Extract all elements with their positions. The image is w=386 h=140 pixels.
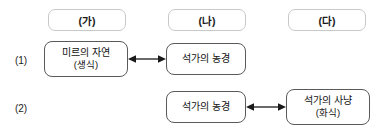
node-row2-col-da: 석가의 사냥 (화식) xyxy=(286,89,370,125)
column-header-da-label: (다) xyxy=(319,13,336,28)
column-header-ga: (가) xyxy=(48,9,126,31)
double-arrow-row1 xyxy=(128,53,166,65)
node-row2-col-na-line1: 석가의 농경 xyxy=(182,101,230,113)
node-row2-col-da-line2: (화식) xyxy=(316,107,340,119)
node-row1-col-ga: 미르의 자연 (생식) xyxy=(44,41,128,77)
double-arrow-row2 xyxy=(246,101,286,113)
column-header-da: (다) xyxy=(288,9,366,31)
node-row1-col-na-line1: 석가의 농경 xyxy=(182,53,230,65)
row-label-1: (1) xyxy=(6,55,36,66)
column-header-ga-label: (가) xyxy=(79,13,96,28)
node-row1-col-ga-line1: 미르의 자연 xyxy=(62,47,110,59)
row-label-2: (2) xyxy=(6,103,36,114)
node-row1-col-na: 석가의 농경 xyxy=(166,43,246,75)
node-row2-col-da-line1: 석가의 사냥 xyxy=(304,95,352,107)
comparison-diagram: (가) (나) (다) (1) 미르의 자연 (생식) 석가의 농경 (2) 석… xyxy=(0,0,386,140)
column-header-na-label: (나) xyxy=(199,13,216,28)
column-header-na: (나) xyxy=(168,9,246,31)
node-row1-col-ga-line2: (생식) xyxy=(74,59,98,71)
node-row2-col-na: 석가의 농경 xyxy=(166,91,246,123)
